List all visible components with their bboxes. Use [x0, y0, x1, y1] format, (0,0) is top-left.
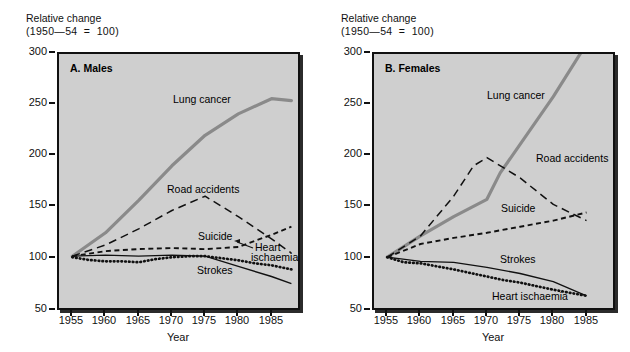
series-suicide-females — [387, 213, 586, 258]
y-tickmark — [49, 153, 55, 155]
x-tick-label: 1975 — [187, 314, 221, 326]
x-tick-label: 1975 — [502, 314, 536, 326]
figure-root: Relative change(1950—54 = 100) — [0, 0, 630, 352]
annotation-strokes-males: Strokes — [197, 264, 233, 276]
series-road-accidents-females — [387, 158, 586, 258]
y-tickmark — [49, 204, 55, 206]
x-axis-label-females: Year — [453, 331, 533, 343]
y-tick-label: 150 — [332, 198, 362, 210]
x-tick-label: 1985 — [569, 314, 603, 326]
annotation-lung-cancer-females: Lung cancer — [487, 89, 545, 101]
y-tickmark — [49, 102, 55, 104]
y-tick-label: 200 — [17, 147, 47, 159]
x-tick-label: 1965 — [436, 314, 470, 326]
y-tick-label: 300 — [332, 45, 362, 57]
x-tick-label: 1955 — [369, 314, 403, 326]
y-axis-title-males: Relative change(1950—54 = 100) — [26, 12, 119, 38]
y-tick-label: 250 — [17, 96, 47, 108]
x-tick-label: 1965 — [121, 314, 155, 326]
y-axis-title-line2: (1950—54 = 100) — [341, 25, 434, 37]
x-axis-label-males: Year — [138, 331, 218, 343]
annotation-suicide-females: Suicide — [501, 202, 535, 214]
y-tick-label: 100 — [332, 250, 362, 262]
y-axis-title-line2: (1950—54 = 100) — [26, 25, 119, 37]
plot-area-males — [57, 52, 300, 310]
y-tick-label: 250 — [332, 96, 362, 108]
series-lung-cancer-males — [72, 99, 291, 257]
panel-title-females: B. Females — [385, 62, 440, 74]
y-tickmark — [364, 308, 370, 310]
y-tickmark — [49, 51, 55, 53]
y-tick-label: 50 — [332, 302, 362, 314]
annotation-lung-cancer-males: Lung cancer — [173, 93, 231, 105]
annotation-road-accidents-males: Road accidents — [167, 183, 239, 195]
x-tick-label: 1960 — [402, 314, 436, 326]
y-tick-label: 50 — [17, 302, 47, 314]
plot-frame-males — [57, 52, 300, 310]
x-tick-label: 1955 — [54, 314, 88, 326]
y-tickmark — [364, 153, 370, 155]
y-tickmark — [364, 51, 370, 53]
panel-males: Relative change(1950—54 = 100) — [0, 0, 315, 352]
y-tickmark — [364, 102, 370, 104]
y-tickmark — [49, 308, 55, 310]
x-tick-label: 1960 — [87, 314, 121, 326]
y-tickmark — [364, 204, 370, 206]
annotation-road-accidents-females: Road accidents — [536, 152, 608, 164]
x-tick-label: 1980 — [220, 314, 254, 326]
y-tickmark — [364, 256, 370, 258]
panel-females: Relative change(1950—54 = 100) — [315, 0, 630, 352]
y-tick-label: 200 — [332, 147, 362, 159]
y-axis-title-line1: Relative change — [26, 12, 101, 24]
annotation-heart-ischaemia-females: Heart ischaemia — [492, 290, 568, 302]
y-tick-label: 100 — [17, 250, 47, 262]
annotation-suicide-males: Suicide — [198, 230, 232, 242]
x-tick-label: 1970 — [154, 314, 188, 326]
y-tick-label: 300 — [17, 45, 47, 57]
annotation-heart-ischaemia-males-line2: ischaemia — [251, 251, 298, 263]
y-axis-title-females: Relative change(1950—54 = 100) — [341, 12, 434, 38]
y-tickmark — [49, 256, 55, 258]
panel-title-males: A. Males — [70, 62, 113, 74]
y-axis-title-line1: Relative change — [341, 12, 416, 24]
x-tick-label: 1980 — [535, 314, 569, 326]
x-tick-label: 1970 — [469, 314, 503, 326]
annotation-strokes-females: Strokes — [500, 253, 536, 265]
y-tick-label: 150 — [17, 198, 47, 210]
x-tick-label: 1985 — [254, 314, 288, 326]
